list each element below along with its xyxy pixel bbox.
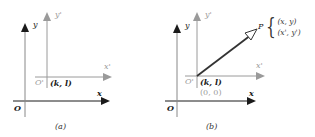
point-p-coords-original: (x, y) — [277, 16, 300, 27]
x-prime-label: x' — [256, 62, 263, 70]
x-axis-arrow-icon — [247, 97, 256, 105]
point-p-coords-translated: (x', y') — [277, 27, 300, 38]
y-prime-axis-arrow-icon — [193, 12, 201, 21]
point-p-coords: (x, y) (x', y') — [277, 16, 300, 38]
origin-prime-label: O' — [35, 79, 44, 87]
x-label: x — [249, 89, 254, 97]
origin-label: O — [14, 104, 21, 112]
x-prime-axis-arrow-icon — [103, 73, 112, 81]
origin-prime-label: O' — [185, 78, 194, 86]
x-prime-label: x' — [104, 63, 111, 71]
x-axis-arrow-icon — [101, 97, 110, 105]
y-prime-axis-arrow-icon — [43, 12, 51, 21]
brace-icon: { — [266, 16, 276, 38]
point-p-label: P — [258, 23, 263, 31]
x-prime-axis-arrow-icon — [256, 72, 265, 80]
y-label: y — [185, 22, 190, 30]
y-label: y — [33, 21, 38, 29]
y-prime-label: y' — [205, 11, 212, 19]
panel-b: y y' x' x O' (k, l) (0, 0) O P { (x, y) … — [155, 0, 312, 137]
caption-a: (a) — [55, 122, 66, 131]
y-axis-arrow-icon — [173, 24, 181, 33]
panel-a: y y' x' x O' (k, l) O (a) — [0, 0, 157, 137]
caption-b: (b) — [206, 122, 217, 131]
origin-prime-coords: (k, l) — [50, 79, 72, 87]
origin-label: O — [167, 104, 174, 112]
origin-prime-new-coords: (0, 0) — [200, 89, 222, 97]
y-axis-arrow-icon — [21, 23, 29, 32]
point-p-annotation: P { (x, y) (x', y') — [258, 16, 301, 38]
axes-diagram-a — [0, 0, 157, 137]
y-prime-label: y' — [55, 11, 62, 19]
x-label: x — [97, 89, 102, 97]
position-vector — [197, 35, 251, 76]
origin-prime-coords: (k, l) — [200, 78, 222, 86]
